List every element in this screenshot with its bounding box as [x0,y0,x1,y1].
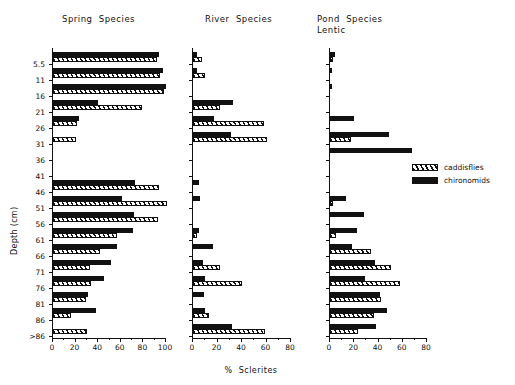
x-tick-label: 40 [236,343,246,352]
y-tick [326,224,330,225]
bar-chironomids [53,52,159,57]
bar-chironomids [330,212,364,217]
y-tick [326,208,330,209]
y-tick [189,208,193,209]
y-tick [49,112,53,113]
y-tick [189,96,193,97]
bar-caddisflies [193,137,267,142]
x-tick [131,338,132,340]
y-tick [189,304,193,305]
y-tick [189,112,193,113]
bar-caddisflies [330,57,333,62]
y-tick-label: 46 [35,188,45,197]
bar-chironomids [193,308,205,313]
y-tick [49,224,53,225]
y-tick [189,176,193,177]
x-tick [97,338,98,342]
x-tick-label: 0 [327,343,332,352]
y-tick-label: 36 [35,156,45,165]
y-tick [189,272,193,273]
x-tick [165,338,166,342]
x-tick [241,338,242,342]
y-tick [326,176,330,177]
bar-chironomids [193,180,199,185]
y-tick [189,288,193,289]
bar-chironomids [53,100,98,105]
x-tick [329,338,330,342]
bar-caddisflies [53,265,90,270]
bar-caddisflies [330,137,351,142]
bar-caddisflies [53,57,157,62]
x-tick [378,338,379,342]
y-tick [326,144,330,145]
bar-chironomids [193,68,197,73]
y-tick [49,320,53,321]
x-tick [192,338,193,342]
y-tick-label: 21 [35,108,45,117]
y-tick [189,336,193,337]
x-tick-label: 20 [348,343,358,352]
bar-chironomids [193,260,203,265]
x-tick-label: 80 [421,343,431,352]
chart-figure: Depth (cm) % Sclerites Spring Species020… [0,0,515,385]
bar-chironomids [193,324,232,329]
x-tick [109,338,110,340]
y-tick [49,304,53,305]
panel-1: 0204060801005.51116212631364146515661667… [52,48,165,336]
y-tick-label: 5.5 [33,60,45,69]
bar-chironomids [330,276,365,281]
bar-chironomids [330,196,346,201]
y-tick [326,320,330,321]
y-tick-label: 41 [35,172,45,181]
x-tick [353,338,354,342]
panel-title-3: Pond Species Lentic [317,14,382,36]
y-tick [49,272,53,273]
bar-caddisflies [53,329,87,334]
y-tick-label: 86 [35,316,45,325]
bar-caddisflies [53,249,100,254]
bar-chironomids [193,132,231,137]
bar-caddisflies [193,105,220,110]
y-tick [189,320,193,321]
y-tick [49,96,53,97]
y-tick [49,208,53,209]
x-tick-label: 0 [50,343,55,352]
y-tick [49,192,53,193]
y-tick [326,336,330,337]
panel-title-1: Spring Species [62,14,135,25]
bar-caddisflies [53,121,77,126]
y-tick-label: 81 [35,300,45,309]
y-tick-label: 76 [35,284,45,293]
bar-chironomids [330,260,375,265]
y-tick [189,240,193,241]
x-tick [341,338,342,340]
x-tick [426,338,427,342]
x-tick [52,338,53,342]
bar-chironomids [193,276,205,281]
bar-caddisflies [53,201,167,206]
bar-caddisflies [53,217,158,222]
y-axis-title: Depth (cm) [10,207,19,255]
x-tick [365,338,366,340]
bar-caddisflies [330,265,391,270]
y-tick-label: 51 [35,204,45,213]
bar-chironomids [53,68,163,73]
x-tick [290,338,291,342]
x-tick [63,338,64,340]
y-tick [189,160,193,161]
bar-caddisflies [53,233,117,238]
x-axis-title: % Sclerites [196,366,306,375]
y-tick-label: 66 [35,252,45,261]
x-tick-label: 40 [373,343,383,352]
y-tick [49,80,53,81]
y-tick-label: 56 [35,220,45,229]
x-tick-label: 60 [397,343,407,352]
y-tick [326,256,330,257]
y-tick [189,192,193,193]
bar-caddisflies [330,297,381,302]
bar-caddisflies [330,329,358,334]
bar-chironomids [53,116,79,121]
bar-chironomids [330,84,332,89]
bar-caddisflies [330,233,336,238]
x-tick [266,338,267,342]
